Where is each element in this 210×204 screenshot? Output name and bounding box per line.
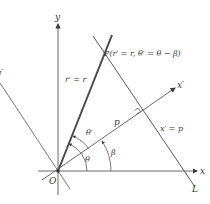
x-prime-axis-label: x′ [177, 80, 184, 90]
line-equation-label: x′ = p [160, 124, 183, 133]
angle-beta-label: β [110, 148, 116, 157]
origin-point [56, 169, 59, 172]
angle-theta-label: θ [85, 155, 90, 164]
line-L-label: L [191, 184, 198, 194]
angle-theta-prime-arc [73, 136, 89, 149]
angle-theta-prime-label: θ′ [86, 128, 93, 137]
angle-beta-arc [102, 141, 111, 171]
x-prime-axis [42, 88, 175, 180]
y-prime-axis [0, 83, 70, 189]
polar-rotation-diagram: y x x′ y′ O P(r′ = r, θ′ = θ − β) r′ = r… [0, 0, 210, 204]
point-P-label: P(r′ = r, θ′ = θ − β) [103, 49, 181, 58]
x-axis-label: x [200, 166, 205, 176]
origin-label: O [49, 176, 57, 186]
y-prime-axis-label: y′ [0, 68, 3, 78]
distance-p-label: p [114, 117, 120, 127]
line-L [93, 36, 195, 187]
right-angle-marker [135, 108, 141, 114]
y-axis-label: y [54, 12, 61, 22]
radius-equation-label: r′ = r [65, 75, 87, 84]
